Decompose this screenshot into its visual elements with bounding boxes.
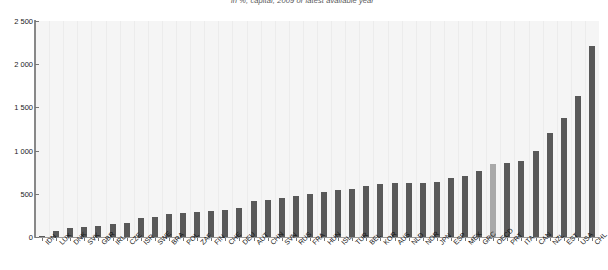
y-axis-tick-mark xyxy=(35,107,39,108)
bar-jpn[interactable] xyxy=(434,182,440,237)
y-axis-tick-label: 2 000 xyxy=(0,60,33,69)
bar-tur[interactable] xyxy=(349,189,355,237)
y-axis-tick-mark xyxy=(35,151,39,152)
bar-bel[interactable] xyxy=(363,186,369,237)
y-axis-tick-label: 500 xyxy=(0,189,33,198)
bar-usa[interactable] xyxy=(575,96,581,237)
plot-area xyxy=(35,21,599,237)
vertical-gridlines xyxy=(35,21,599,237)
bar-chl[interactable] xyxy=(589,46,595,237)
bar-idn[interactable] xyxy=(39,236,45,237)
bar-che[interactable] xyxy=(222,210,228,237)
y-axis-tick-label: 0 xyxy=(0,233,33,242)
y-axis-tick-mark xyxy=(35,21,39,22)
bar-hun[interactable] xyxy=(321,192,327,237)
bar-kor[interactable] xyxy=(377,184,383,237)
bar-grc[interactable] xyxy=(476,171,482,237)
bar-swe[interactable] xyxy=(152,217,158,237)
y-axis-tick-label: 2 500 xyxy=(0,17,33,26)
bar-nor[interactable] xyxy=(420,183,426,237)
y-axis-tick-label: 1 500 xyxy=(0,103,33,112)
y-axis-tick-mark xyxy=(35,237,39,238)
bar-oecd[interactable] xyxy=(490,164,496,237)
bar-mex[interactable] xyxy=(462,176,468,237)
y-axis-tick-mark xyxy=(35,194,39,195)
bar-cze[interactable] xyxy=(124,223,130,237)
bar-nld[interactable] xyxy=(406,183,412,237)
bar-nzl[interactable] xyxy=(547,133,553,237)
bar-aus[interactable] xyxy=(392,183,398,237)
bar-ita[interactable] xyxy=(518,161,524,237)
bar-est[interactable] xyxy=(561,118,567,237)
y-axis-tick-label: 1 000 xyxy=(0,146,33,155)
y-axis-line xyxy=(34,20,36,238)
y-axis-tick-mark xyxy=(35,64,39,65)
bar-can[interactable] xyxy=(533,151,539,237)
bar-esp[interactable] xyxy=(448,178,454,237)
